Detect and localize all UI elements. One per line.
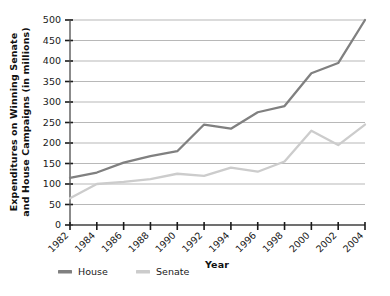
chart-canvas: Expenditures on Winning Senate and House… [0, 0, 390, 296]
legend-swatch-senate [136, 270, 150, 274]
y-tick-label: 250 [43, 117, 61, 128]
y-axis-title-line1: Expenditures on Winning Senate [8, 33, 19, 212]
legend-label-house: House [78, 266, 108, 277]
y-tick-label: 200 [43, 137, 61, 148]
y-tick-label: 300 [43, 96, 61, 107]
y-tick-label: 0 [55, 219, 61, 230]
y-tick-label: 150 [43, 158, 61, 169]
legend-swatch-house [58, 270, 72, 274]
y-axis-title-line2: and House Campaigns (in millions) [20, 27, 31, 216]
y-tick-label: 400 [43, 55, 61, 66]
y-tick-label: 50 [49, 199, 61, 210]
y-tick-label: 100 [43, 178, 61, 189]
x-axis-title: Year [204, 259, 229, 270]
expenditures-line-chart: Expenditures on Winning Senate and House… [0, 0, 390, 296]
y-tick-label: 350 [43, 76, 61, 87]
y-axis-title: Expenditures on Winning Senate and House… [8, 27, 31, 216]
y-tick-label: 500 [43, 14, 61, 25]
legend-label-senate: Senate [156, 266, 189, 277]
y-tick-label: 450 [43, 35, 61, 46]
